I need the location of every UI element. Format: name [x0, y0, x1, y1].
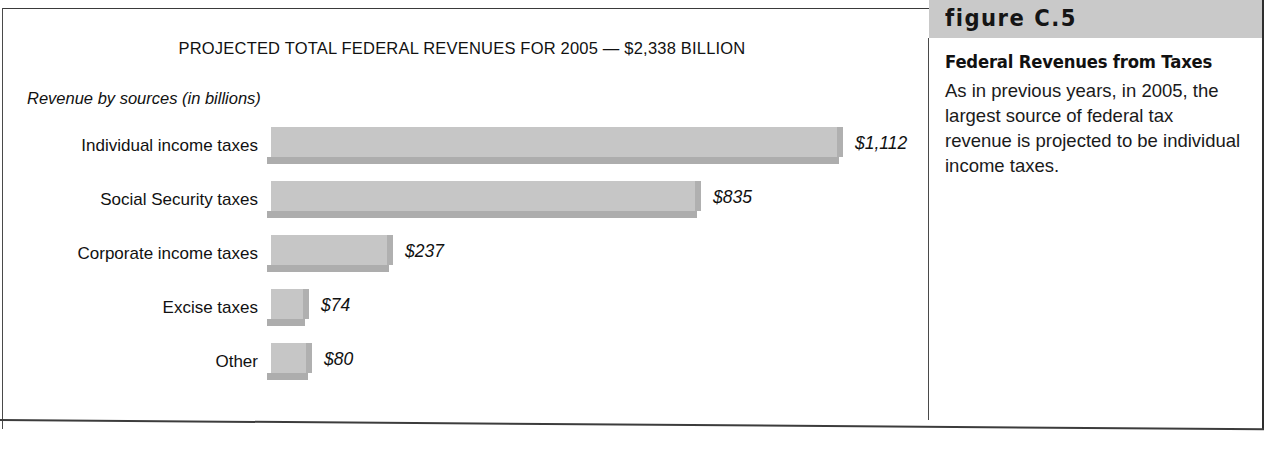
bar-row: Individual income taxes$1,112	[3, 119, 928, 173]
caption-body: As in previous years, in 2005, the large…	[945, 78, 1245, 178]
bar-row: Excise taxes$74	[3, 281, 928, 335]
bar-right-bevel	[695, 181, 701, 211]
chart-title: PROJECTED TOTAL FEDERAL REVENUES FOR 200…	[3, 39, 921, 58]
bar-value-label: $1,112	[855, 133, 907, 154]
bar	[267, 127, 843, 165]
caption-heading: Federal Revenues from Taxes	[945, 52, 1212, 72]
bar-bottom-bevel	[267, 319, 305, 326]
bar-category-label: Social Security taxes	[100, 190, 267, 210]
bar-row: Corporate income taxes$237	[3, 227, 928, 281]
bar-right-bevel	[303, 289, 309, 319]
bar-rows: Individual income taxes$1,112Social Secu…	[3, 119, 928, 389]
bar-category-label: Other	[215, 352, 267, 372]
bar-category-label: Corporate income taxes	[78, 244, 267, 264]
bar-row: Social Security taxes$835	[3, 173, 928, 227]
frame-right-border	[1262, 0, 1264, 430]
bar-category-label: Excise taxes	[163, 298, 267, 318]
bar-category-label: Individual income taxes	[81, 136, 267, 156]
bar-value-label: $80	[324, 349, 353, 370]
bar	[267, 289, 309, 327]
figure-caption-panel: figure C.5 Federal Revenues from Taxes A…	[929, 0, 1262, 420]
bar-front-face	[271, 127, 843, 157]
bar-bottom-bevel	[267, 265, 389, 272]
bar	[267, 343, 312, 381]
bar-right-bevel	[387, 235, 393, 265]
bar-front-face	[271, 235, 393, 265]
bar	[267, 181, 701, 219]
bar-row: Other$80	[3, 335, 928, 389]
figure-number-label: figure C.5	[945, 5, 1077, 31]
frame-bottom-border	[0, 419, 1264, 430]
bar-chart: PROJECTED TOTAL FEDERAL REVENUES FOR 200…	[3, 9, 928, 419]
bar	[267, 235, 393, 273]
bar-value-label: $835	[713, 187, 752, 208]
bar-bottom-bevel	[267, 157, 839, 164]
chart-subtitle: Revenue by sources (in billions)	[27, 89, 261, 108]
figure-container: PROJECTED TOTAL FEDERAL REVENUES FOR 200…	[0, 0, 1288, 453]
bar-bottom-bevel	[267, 211, 697, 218]
bar-right-bevel	[306, 343, 312, 373]
bar-bottom-bevel	[267, 373, 308, 380]
bar-front-face	[271, 181, 701, 211]
bar-value-label: $74	[321, 295, 350, 316]
bar-right-bevel	[837, 127, 843, 157]
bar-value-label: $237	[405, 241, 444, 262]
